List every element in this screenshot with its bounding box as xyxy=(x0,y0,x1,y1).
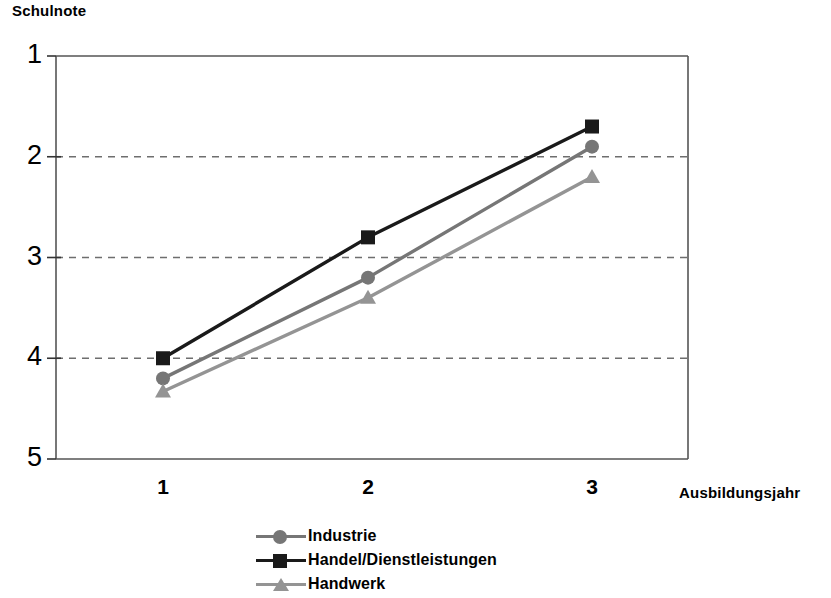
legend-key-square-icon xyxy=(256,551,306,569)
y-tick-label: 2 xyxy=(8,142,42,169)
legend-marker-triangle-icon xyxy=(273,578,289,591)
marker-circle xyxy=(585,140,599,154)
legend-key-circle-icon xyxy=(256,527,306,545)
legend-item[interactable]: Industrie xyxy=(256,524,497,547)
chart-legend: IndustrieHandel/DienstleistungenHandwerk xyxy=(256,524,497,595)
y-axis-title: Schulnote xyxy=(12,2,86,19)
series-handel-dienstleistungen xyxy=(156,120,599,366)
legend-label: Handwerk xyxy=(308,575,385,593)
legend-key-triangle-icon xyxy=(256,575,306,593)
legend-label: Industrie xyxy=(308,527,376,545)
series-industrie xyxy=(156,140,599,386)
chart-container: Schulnote Ausbildungsjahr 12345 123 Indu… xyxy=(0,0,831,598)
marker-triangle xyxy=(584,169,600,183)
marker-square xyxy=(361,230,375,244)
series-line xyxy=(163,127,592,359)
marker-square xyxy=(585,120,599,134)
y-tick-label: 1 xyxy=(8,41,42,68)
marker-circle xyxy=(361,271,375,285)
legend-marker-square-icon xyxy=(273,554,287,568)
y-tick-label: 3 xyxy=(8,243,42,270)
series-handwerk xyxy=(155,169,600,398)
legend-marker-circle-icon xyxy=(273,530,287,544)
chart-plot-area xyxy=(0,0,831,598)
legend-label: Handel/Dienstleistungen xyxy=(308,551,497,569)
x-tick-label: 2 xyxy=(348,476,388,497)
y-tick-label: 5 xyxy=(8,444,42,471)
marker-triangle xyxy=(360,290,376,304)
series-line xyxy=(163,147,592,379)
marker-circle xyxy=(156,371,170,385)
x-tick-label: 3 xyxy=(572,476,612,497)
x-axis-title: Ausbildungsjahr xyxy=(679,484,800,501)
legend-item[interactable]: Handwerk xyxy=(256,572,497,595)
x-tick-label: 1 xyxy=(143,476,183,497)
legend-item[interactable]: Handel/Dienstleistungen xyxy=(256,548,497,571)
marker-square xyxy=(156,351,170,365)
y-tick-label: 4 xyxy=(8,343,42,370)
series-line xyxy=(163,177,592,392)
